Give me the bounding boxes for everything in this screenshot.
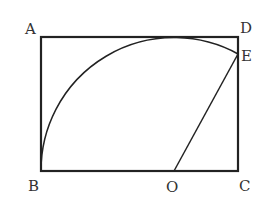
label-d: D [240,19,252,37]
segment-oe [174,54,238,171]
label-c: C [239,177,250,195]
arc-be [41,38,238,171]
label-o: O [166,178,178,196]
geometry-diagram: A D E B O C [0,0,270,208]
rectangle-abcd [41,37,238,171]
label-e: E [241,47,252,65]
label-a: A [24,20,36,38]
label-b: B [28,177,39,195]
